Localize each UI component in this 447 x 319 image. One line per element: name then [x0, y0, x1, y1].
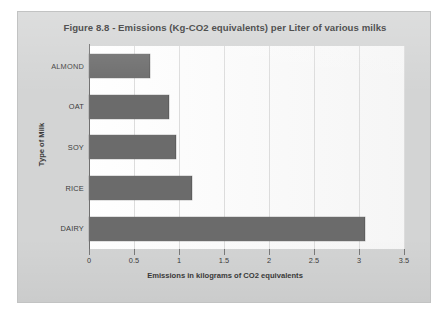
bar-row: [89, 127, 176, 168]
x-axis-tick: [224, 249, 225, 255]
y-axis-line: [89, 44, 90, 251]
x-axis-tick: [314, 249, 315, 255]
y-axis-category-label: DAIRY: [32, 208, 87, 249]
bar-soy[interactable]: [89, 135, 176, 159]
y-axis-category-labels: ALMONDOATSOYRICEDAIRY: [32, 46, 87, 249]
x-axis-tick: [359, 249, 360, 255]
bar-dairy[interactable]: [89, 217, 365, 241]
bar-almond[interactable]: [89, 54, 150, 78]
x-axis-tick-label: 0: [87, 256, 91, 265]
x-axis-tick: [179, 249, 180, 255]
y-axis-category-label: SOY: [32, 127, 87, 168]
y-axis-category-label: ALMOND: [32, 46, 87, 87]
chart-panel: Figure 8.8 - Emissions (Kg-CO2 equivalen…: [17, 11, 431, 303]
x-axis-tick: [89, 249, 90, 255]
x-axis-tick: [269, 249, 270, 255]
bars-group: [89, 46, 404, 249]
x-axis-tick-label: 2.5: [309, 256, 319, 265]
bar-row: [89, 46, 150, 87]
x-axis-tick-label: 1.5: [219, 256, 229, 265]
x-axis-tick: [134, 249, 135, 255]
bar-oat[interactable]: [89, 95, 169, 119]
bar-row: [89, 87, 169, 128]
chart-title: Figure 8.8 - Emissions (Kg-CO2 equivalen…: [18, 22, 432, 34]
scanned-page: Figure 8.8 - Emissions (Kg-CO2 equivalen…: [0, 0, 447, 319]
y-axis-category-label: RICE: [32, 168, 87, 209]
x-axis-tick-labels: 00.511.522.533.5: [89, 256, 404, 268]
x-axis-tick-label: 3: [357, 256, 361, 265]
x-axis-ticks: [89, 249, 404, 255]
bar-row: [89, 168, 192, 209]
x-axis-tick-label: 0.5: [129, 256, 139, 265]
x-axis-tick-label: 3.5: [399, 256, 409, 265]
y-axis-category-label: OAT: [32, 87, 87, 128]
x-axis-tick: [404, 249, 405, 255]
bar-row: [89, 208, 365, 249]
bar-rice[interactable]: [89, 176, 192, 200]
gridline: [404, 46, 405, 249]
x-axis-title: Emissions in kilograms of CO2 equivalent…: [18, 271, 432, 280]
x-axis-tick-label: 2: [267, 256, 271, 265]
plot-area: [89, 46, 404, 249]
x-axis-tick-label: 1: [177, 256, 181, 265]
